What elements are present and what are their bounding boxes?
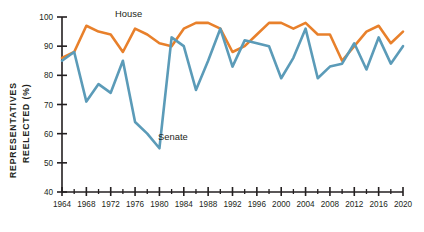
y-tick-label-60: 60 (44, 130, 54, 139)
background-bleed-text-top (150, 2, 420, 12)
x-axis-tick-labels: 1964196819721976198019841988199219962000… (53, 200, 413, 209)
x-tick-label-1964: 1964 (53, 200, 72, 209)
x-tick-label-1988: 1988 (199, 200, 218, 209)
senate-series-label: Senate (158, 131, 188, 142)
x-tick-label-1984: 1984 (175, 200, 194, 209)
y-tick-label-50: 50 (44, 159, 54, 168)
y-axis-title: REPRESENTATIVES REELECTED (%) (8, 82, 31, 178)
y-tick-label-80: 80 (44, 71, 54, 80)
y-tick-label-40: 40 (44, 188, 54, 197)
y-tick-label-70: 70 (44, 101, 54, 110)
x-tick-label-1992: 1992 (223, 200, 242, 209)
x-tick-label-2016: 2016 (370, 200, 389, 209)
y-axis-tick-labels: 405060708090100 (39, 13, 53, 197)
house-series-label: House (115, 8, 142, 19)
x-tick-label-2012: 2012 (345, 200, 364, 209)
x-tick-label-1980: 1980 (150, 200, 169, 209)
x-tick-label-1968: 1968 (77, 200, 96, 209)
series-line-house (62, 23, 403, 61)
x-tick-label-2004: 2004 (296, 200, 315, 209)
reelection-rate-line-chart: REPRESENTATIVES REELECTED (%) 4050607080… (0, 0, 424, 232)
y-axis-title-line1: REPRESENTATIVES (8, 82, 18, 178)
background-bleed-text-bottom (60, 218, 420, 230)
x-tick-label-1996: 1996 (248, 200, 267, 209)
y-tick-label-90: 90 (44, 42, 54, 51)
x-tick-label-2000: 2000 (272, 200, 291, 209)
series-line-senate (62, 29, 403, 149)
x-tick-label-2008: 2008 (321, 200, 340, 209)
x-tick-label-2020: 2020 (394, 200, 413, 209)
x-tick-label-1972: 1972 (102, 200, 121, 209)
series-lines (62, 23, 403, 148)
x-tick-label-1976: 1976 (126, 200, 145, 209)
chart-container: REPRESENTATIVES REELECTED (%) 4050607080… (0, 0, 424, 232)
y-tick-label-100: 100 (39, 13, 53, 22)
y-axis-title-line2: REELECTED (%) (21, 84, 31, 164)
